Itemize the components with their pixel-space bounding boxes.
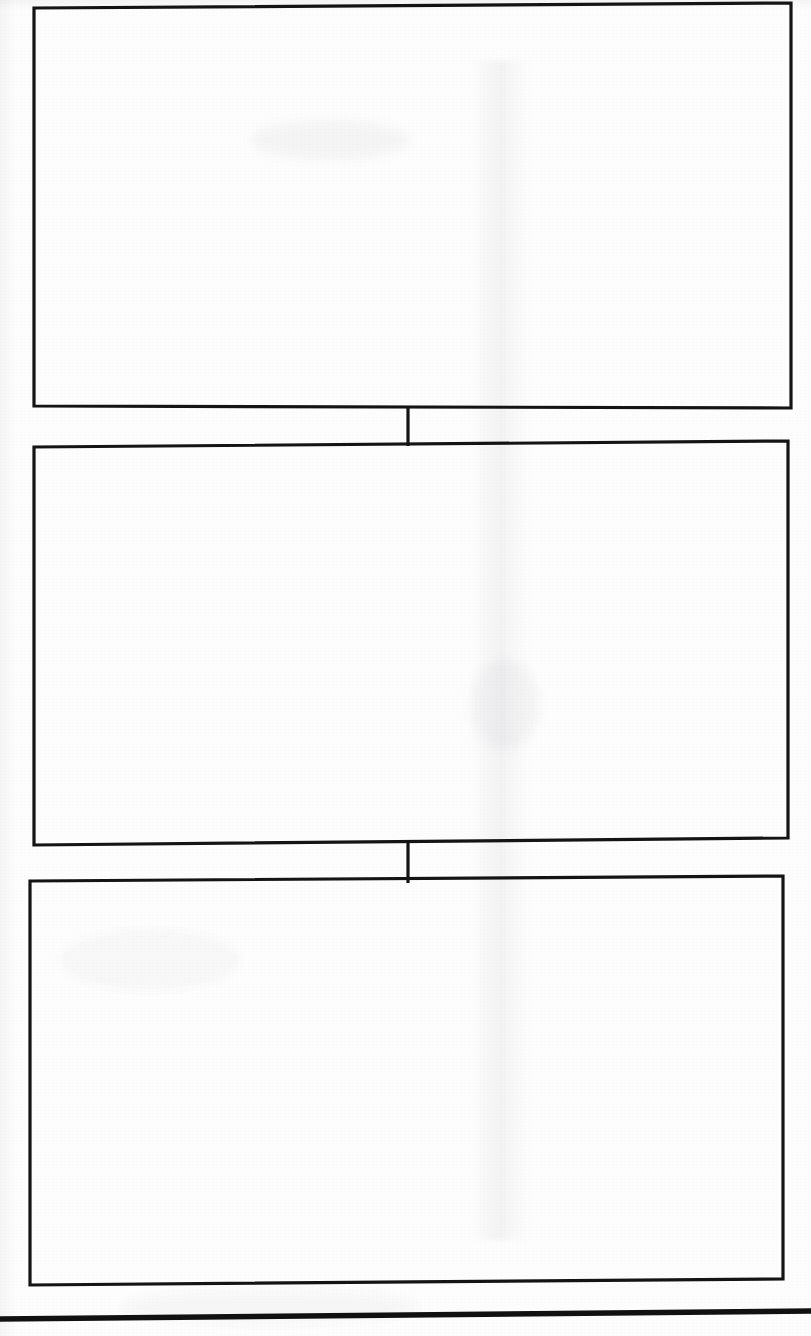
- flow-box-3-label: [29, 879, 782, 1283]
- flow-box-2[interactable]: [33, 444, 787, 843]
- footer-horizontal-rule: [0, 1311, 811, 1319]
- flow-box-2-label: [33, 444, 787, 843]
- flow-box-3[interactable]: [29, 879, 782, 1283]
- flow-box-1-label: [33, 7, 791, 408]
- flow-box-1[interactable]: [33, 7, 791, 408]
- scanned-page: [0, 0, 811, 1336]
